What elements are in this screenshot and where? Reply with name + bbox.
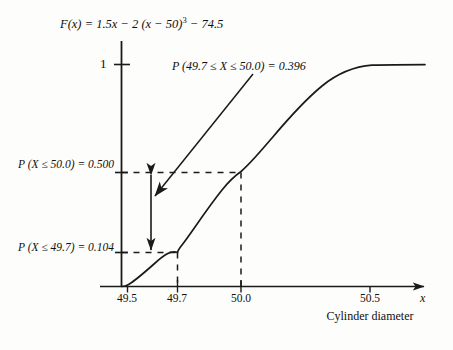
x-axis-caption: Cylinder diameter — [327, 310, 414, 322]
x-tick-label-49-5: 49.5 — [117, 293, 137, 305]
x-tick-label-50-5: 50.5 — [360, 293, 380, 305]
x-tick-label-49-7: 49.7 — [167, 293, 187, 305]
x-tick-label-50-0: 50.0 — [231, 293, 251, 305]
formula-tail: − 74.5 — [187, 17, 224, 31]
annotation-pointer-arrow — [155, 74, 253, 196]
plot-canvas — [0, 0, 453, 350]
cdf-figure: F(x) = 1.5x − 2 (x − 50)3 − 74.5 P (49.7… — [0, 0, 453, 350]
formula-text: F(x) = 1.5x − 2 (x − 50) — [60, 17, 183, 31]
cdf-at-50-label: P (X ≤ 50.0) = 0.500 — [18, 159, 114, 171]
cdf-at-497-label: P (X ≤ 49.7) = 0.104 — [18, 242, 114, 254]
cdf-curve — [122, 65, 425, 287]
x-axis-symbol: x — [420, 292, 425, 304]
formula-label: F(x) = 1.5x − 2 (x − 50)3 − 74.5 — [60, 16, 223, 31]
y-tick-label-1: 1 — [100, 57, 107, 70]
interval-probability-label: P (49.7 ≤ X ≤ 50.0) = 0.396 — [172, 60, 306, 72]
